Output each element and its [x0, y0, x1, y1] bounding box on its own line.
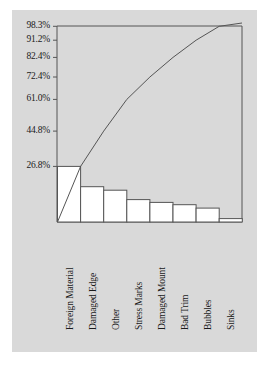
x-category-label-bubbles: Bubbles [203, 300, 213, 330]
x-axis-label-group: Foreign Material Damaged Edge Other Stre… [12, 10, 257, 352]
x-category-label-damaged-mount: Damaged Mount [157, 267, 167, 330]
pareto-chart-panel: 98.3% 91.2% 82.4% 72.4% 61.0% 44.8% 26.8… [12, 10, 257, 352]
x-category-label-other: Other [111, 309, 121, 330]
x-category-label-bad-trim: Bad Trim [180, 295, 190, 330]
x-category-label-damaged-edge: Damaged Edge [88, 273, 98, 330]
x-category-label-sinks: Sinks [226, 309, 236, 330]
x-category-label-foreign-material: Foreign Material [65, 267, 75, 330]
x-category-label-stress-marks: Stress Marks [134, 282, 144, 330]
